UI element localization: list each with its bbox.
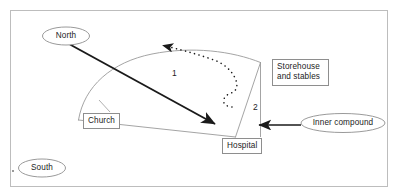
label-north: North: [45, 31, 87, 41]
label-zone-1: 1: [172, 68, 177, 78]
page-corner-mark: [12, 170, 14, 172]
label-zone-2: 2: [253, 102, 258, 112]
label-storehouse-and-stables: Storehouse and stables: [272, 59, 329, 86]
label-church: Church: [83, 113, 120, 129]
storehouse-line-2: and stables: [277, 72, 320, 81]
storehouse-line-1: Storehouse: [277, 62, 320, 71]
label-south: South: [21, 163, 63, 173]
label-hospital: Hospital: [222, 138, 262, 154]
figure-diagram: North South Inner compound Church Hospit…: [0, 0, 404, 195]
label-inner-compound: Inner compound: [306, 118, 380, 128]
